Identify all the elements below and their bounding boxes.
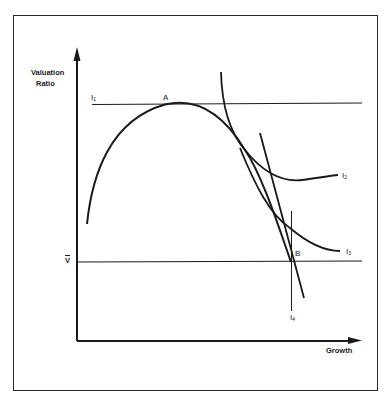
x-axis-label: Growth	[326, 347, 352, 355]
i3-curve	[240, 148, 340, 251]
i2-curve	[221, 72, 338, 180]
valuation-growth-diagram: Valuation Ratio I1 A I2 I3 V B I4 Growth	[0, 0, 386, 404]
diagram-canvas	[0, 0, 386, 404]
i3-label-sub: 3	[348, 250, 351, 256]
i1-label-sub: 1	[93, 96, 96, 102]
point-b-label: B	[295, 250, 300, 258]
y-axis-label-ratio: Ratio	[36, 80, 55, 88]
i2-label: I2	[342, 172, 347, 180]
x-axis-arrow-icon	[348, 337, 362, 344]
i4-label: I4	[290, 314, 295, 322]
i4-label-sub: 4	[292, 316, 295, 322]
i3-label: I3	[346, 248, 351, 256]
tangent-line	[260, 133, 304, 298]
i1-label: I1	[91, 94, 96, 102]
y-axis-arrow-icon	[74, 47, 81, 61]
i2-label-sub: 2	[344, 174, 347, 180]
figure-frame	[14, 16, 378, 391]
opportunity-curve	[87, 103, 291, 262]
i1-line	[92, 103, 362, 105]
v-bar-label: V	[65, 257, 70, 265]
v-bar-line	[77, 261, 362, 262]
point-a-label: A	[163, 94, 168, 102]
y-axis-label-valuation: Valuation	[31, 69, 64, 77]
